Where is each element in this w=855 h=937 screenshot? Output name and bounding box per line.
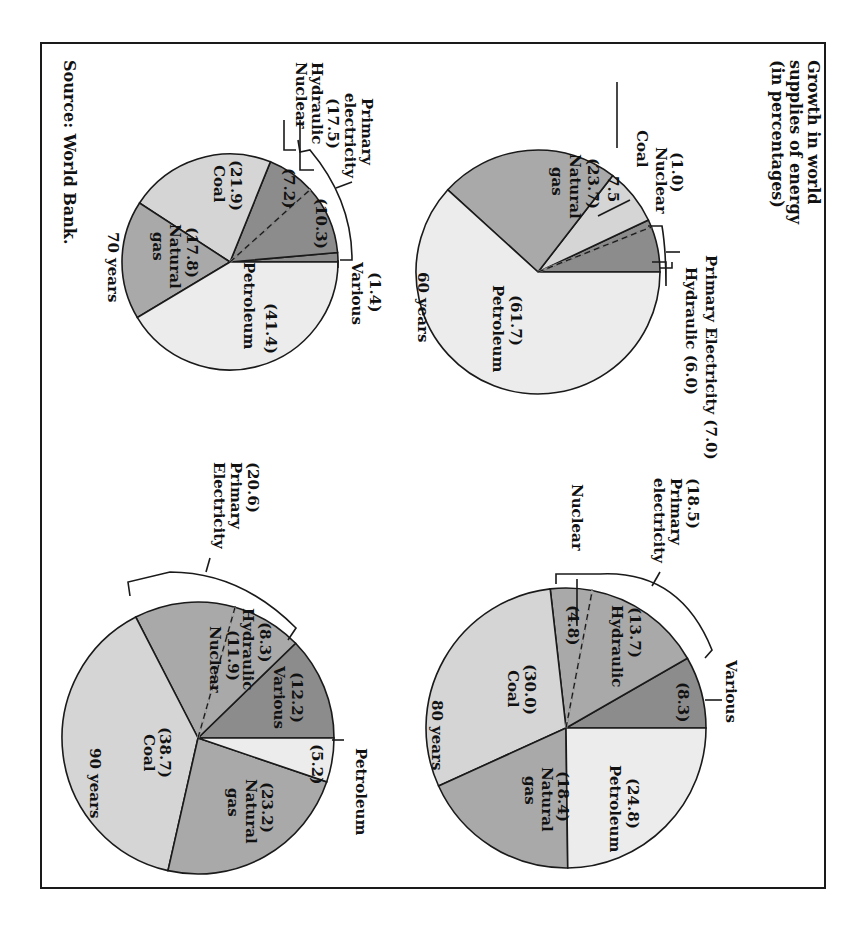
label-petroleum-value-70: (41.4) [262, 303, 280, 354]
label-nuclear-80: Nuclear [568, 484, 586, 552]
label-gas-60: Natural [566, 154, 584, 219]
label-petroleum-90: Petroleum [352, 748, 370, 835]
label-hydraulic-value-70: (10.3) [312, 198, 330, 249]
label-coal-value-80: (30.0) [521, 664, 539, 715]
chart-title-line-1: Growth in world [804, 60, 823, 205]
label-electricity-80: electricity [650, 478, 668, 564]
label-petroleum-value-90: (5.2) [308, 744, 326, 784]
label-petroleum-80: Petroleum [606, 765, 624, 852]
label-coal-60: Coal [633, 130, 651, 168]
label-gas-80: Natural [538, 767, 556, 832]
label-nuclear-value-80: (4.8) [564, 605, 582, 645]
label-nuclear-90: Nuclear [206, 626, 224, 694]
label-nuclear-60: Nuclear [652, 147, 670, 215]
label-hydraulic-60: Hydraulic (6.0) [682, 267, 700, 395]
label-gas-60-2: gas [548, 167, 566, 196]
label-gas-90-2: gas [224, 788, 242, 817]
label-gas-70-2: gas [149, 232, 167, 261]
pie-90-years [62, 602, 334, 874]
label-various-70: Various [348, 261, 366, 325]
label-petroleum-value-80: (24.8) [624, 778, 642, 829]
label-various-value-90: (12.2) [288, 672, 306, 723]
label-primary-70: Primary [358, 98, 376, 166]
year-label-80: 80 years [428, 700, 446, 770]
chart-title-line-2: supplies of energy [786, 60, 805, 225]
label-coal-80: Coal [504, 670, 522, 708]
label-coal-70: Coal [210, 165, 228, 203]
label-gas-90: Natural [242, 779, 260, 844]
figure: Growth in worldsupplies of energy(in per… [0, 0, 855, 937]
label-various-value-70: (1.4) [366, 272, 384, 312]
label-coal-value-60: 7.5 [604, 176, 622, 202]
label-nuclear-70: Nuclear [292, 62, 310, 130]
label-various-90: Various [270, 665, 288, 729]
label-primary-electricity-60: Primary Electricity (7.0) [702, 255, 720, 460]
label-hydraulic-value-90: (8.3) [256, 622, 274, 662]
label-primary-value-90: (20.6) [244, 462, 262, 513]
label-primary-value-80: (18.5) [684, 478, 702, 529]
label-petroleum-70: Petroleum [240, 262, 258, 349]
label-coal-value-70: (21.9) [227, 160, 245, 211]
label-petroleum-value-60: (61.7) [507, 295, 525, 346]
chart-title-line-3: (in percentages) [768, 60, 787, 208]
label-gas-80-2: gas [521, 776, 539, 805]
year-label-90: 90 years [86, 748, 104, 818]
source-note: Source: World Bank. [60, 60, 79, 244]
label-primary-90: Primary [227, 462, 245, 530]
label-coal-90: Coal [140, 734, 158, 772]
label-nuclear-value-70: (7.2) [280, 168, 298, 208]
label-primary-80: Primary [667, 478, 685, 546]
label-electricity-90: Electricity [210, 462, 228, 550]
label-petroleum-60: Petroleum [489, 285, 507, 372]
label-gas-70: Natural [166, 224, 184, 289]
label-hydraulic-80: Hydraulic [608, 605, 626, 687]
label-nuclear-value-90: (11.9) [224, 630, 242, 681]
pie-60-years [416, 150, 660, 394]
label-hydraulic-value-80: (13.7) [626, 607, 644, 658]
energy-pie-figure: Growth in worldsupplies of energy(in per… [0, 0, 855, 937]
label-gas-value-70: (17.8) [183, 227, 201, 278]
label-electricity-70: electricity [341, 93, 359, 179]
year-label-60: 60 years [414, 272, 432, 342]
label-various-value-80: (8.3) [674, 682, 692, 722]
label-gas-value-60: (23.7) [584, 158, 602, 209]
year-label-70: 70 years [104, 232, 122, 302]
label-various-80: Various [722, 659, 740, 723]
